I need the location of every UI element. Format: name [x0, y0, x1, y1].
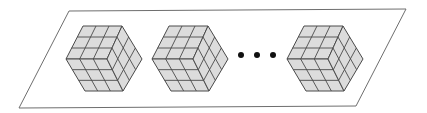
- cube-sequence-diagram: [0, 0, 427, 113]
- ellipsis-dot: [238, 52, 244, 58]
- ellipsis-dot: [270, 52, 276, 58]
- ellipsis-dot: [254, 52, 260, 58]
